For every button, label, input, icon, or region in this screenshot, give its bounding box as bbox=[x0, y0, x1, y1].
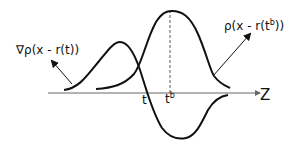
gradient-curve-label: ∇ρ(x - r(t)) bbox=[16, 44, 79, 56]
density-curve-label: ρ(x - r(tb)) bbox=[224, 19, 284, 32]
z-axis-label: Z bbox=[260, 88, 270, 103]
gradient-curve bbox=[64, 42, 228, 139]
gradient-label-arrow bbox=[52, 61, 72, 84]
density-label-main: ρ(x - r(t bbox=[224, 19, 270, 33]
t-marker-label: t bbox=[142, 94, 147, 106]
density-label-end: )) bbox=[275, 19, 284, 33]
density-label-arrow bbox=[213, 34, 250, 76]
tb-marker-sup: b bbox=[170, 91, 175, 100]
tb-marker-label: tb bbox=[165, 92, 175, 105]
density-curve bbox=[96, 11, 230, 89]
